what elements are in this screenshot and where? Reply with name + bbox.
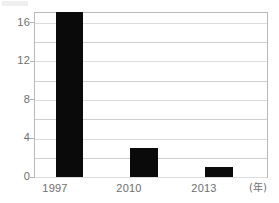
gridline-2 xyxy=(35,177,267,178)
y-axis: 16 12 8 4 0 xyxy=(0,0,30,203)
x-tick-label-2010: 2010 xyxy=(110,182,148,194)
x-tick-label-1997: 1997 xyxy=(36,182,74,194)
x-axis-unit-label: (年) xyxy=(249,182,267,194)
y-tick-label-4: 4 xyxy=(4,132,30,143)
y-tick-label-12: 12 xyxy=(4,55,30,66)
bar-1997 xyxy=(56,12,83,177)
y-tick-label-0: 0 xyxy=(4,171,30,182)
plot-area xyxy=(34,12,268,178)
y-tick-label-16: 16 xyxy=(4,17,30,28)
bar-2013 xyxy=(205,167,233,177)
bar-2010 xyxy=(130,148,158,177)
x-axis: 1997 2010 2013 (年) xyxy=(0,182,279,200)
x-tick-label-2013: 2013 xyxy=(185,182,223,194)
y-tick-label-8: 8 xyxy=(4,94,30,105)
bar-chart: 16 12 8 4 0 1997 2010 2013 (年) xyxy=(0,0,279,203)
